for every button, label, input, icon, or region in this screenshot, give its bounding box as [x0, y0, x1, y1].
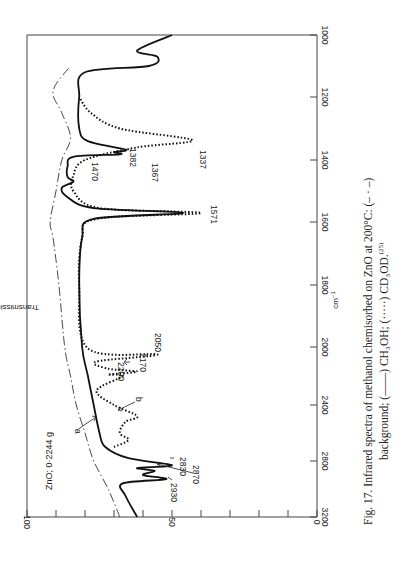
plot-area	[27, 35, 317, 517]
transmission-tick-label: 0	[312, 520, 322, 525]
wavenumber-tick-label: 1400	[320, 151, 330, 170]
figure-caption: Fig. 17. Infrared spectra of methanol ch…	[362, 178, 391, 525]
transmission-ticks	[27, 510, 317, 517]
ch3oh-curve	[62, 35, 184, 517]
ir-spectrum-figure: 320028002400200018001600140012001000 050…	[0, 0, 409, 566]
wavenumber-ticks	[310, 35, 317, 517]
wavenumber-tick-label: 2800	[320, 452, 330, 471]
peak-1470: 1470	[90, 162, 100, 181]
wavenumber-tick-label: 2000	[320, 338, 330, 357]
peak-2050: 2050	[153, 333, 163, 352]
wavenumber-tick-label: 1200	[320, 88, 330, 107]
marker-b: b	[134, 397, 144, 402]
plot-frame	[27, 35, 317, 517]
peak-1367: 1367	[150, 163, 160, 182]
arrow-b	[118, 402, 135, 411]
wavenumber-tick-label: 2400	[320, 396, 330, 415]
wavenumber-tick-label: 1800	[320, 276, 330, 295]
peak-2200: 2200	[116, 362, 126, 381]
caption-line-2: background; (——) CH₃OH; (·····) CD₃OD.(2…	[377, 242, 391, 460]
y-axis-title: Transmission (%)	[0, 303, 39, 312]
peak-2170: 2170	[138, 353, 148, 372]
wavenumber-tick-label: 1600	[320, 213, 330, 232]
caption-line-1: Fig. 17. Infrared spectra of methanol ch…	[362, 178, 375, 525]
peak-annotations: 1337 1367 1382 1470 1571 2050 2170 2200 …	[73, 148, 219, 502]
peak-2830: 2830	[178, 457, 188, 476]
leader-2930	[168, 477, 172, 480]
peak-1382: 1382	[128, 148, 138, 167]
peak-2870: 2870	[191, 465, 201, 484]
transmission-tick-label: 50	[167, 517, 177, 527]
peak-1337: 1337	[198, 150, 208, 169]
x-axis-title: cm−1	[330, 291, 340, 309]
wavenumber-tick-labels: 320028002400200018001600140012001000	[320, 26, 330, 527]
peak-1571: 1571	[209, 205, 219, 224]
transmission-tick-label: 100	[22, 515, 32, 529]
peak-2930: 2930	[169, 483, 179, 502]
wavenumber-tick-label: 1000	[320, 26, 330, 45]
sample-label: ZnO; 0·2244 g	[44, 432, 54, 490]
